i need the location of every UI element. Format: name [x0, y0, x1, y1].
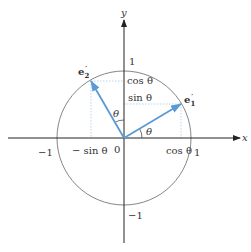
- svg-text:e1′: e1′: [184, 92, 195, 108]
- tick-y-neg-one: −1: [128, 210, 143, 221]
- projection-lines: [91, 81, 181, 138]
- sin-theta-y-label: sin θ: [128, 92, 152, 103]
- origin-label: 0: [114, 144, 120, 155]
- cos-theta-x-label: cos θ: [166, 145, 192, 156]
- svg-text:e2′: e2′: [78, 64, 89, 80]
- e1-prime-label: e1′: [184, 92, 195, 108]
- x-axis-label: x: [242, 132, 248, 143]
- angle-arc-y: [115, 120, 124, 123]
- y-axis-label: y: [120, 7, 127, 18]
- vector-e1-prime: [124, 104, 181, 138]
- theta-x-label: θ: [146, 126, 152, 137]
- rotation-diagram: y x 0 1 −1 −1 1 cos θ − sin θ cos θ sin …: [0, 0, 251, 252]
- angle-arc-x: [140, 129, 143, 138]
- tick-x-neg-one: −1: [38, 147, 53, 158]
- theta-y-label: θ: [113, 108, 119, 119]
- vector-e2-prime: [91, 81, 124, 138]
- neg-sin-theta-label: − sin θ: [72, 145, 108, 156]
- cos-theta-y-label: cos θ: [127, 75, 153, 86]
- e2-prime-label: e2′: [78, 64, 89, 80]
- tick-y-pos-one: 1: [129, 56, 135, 67]
- tick-x-pos-one: 1: [194, 147, 200, 158]
